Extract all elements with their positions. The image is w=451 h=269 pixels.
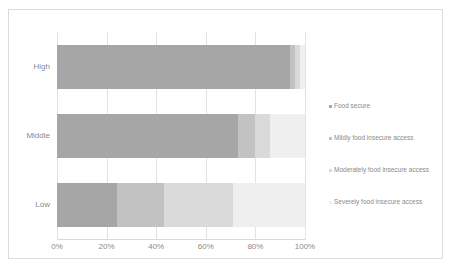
stacked-bar-chart: HighMiddleLow 0%20%40%60%80%100% Food se… — [0, 0, 451, 269]
legend-swatch-icon — [329, 137, 332, 140]
chart-legend: Food secureMildly food insecure accessMo… — [329, 102, 451, 230]
bar-segment[interactable] — [57, 114, 238, 158]
legend-item[interactable]: Mildly food insecure access — [329, 134, 451, 166]
y-axis-category-label: Middle — [26, 132, 50, 140]
y-axis-category-label: Low — [35, 201, 50, 209]
legend-item[interactable]: Food secure — [329, 102, 451, 134]
legend-item-label: Moderately food insecure access — [334, 166, 429, 174]
x-axis-tick-labels: 0%20%40%60%80%100% — [57, 243, 305, 257]
x-axis-tick-label: 60% — [198, 243, 214, 251]
legend-swatch-icon — [329, 105, 332, 108]
x-axis-tick-label: 0% — [51, 243, 63, 251]
x-axis-tick-label: 40% — [148, 243, 164, 251]
bar-segment[interactable] — [238, 114, 255, 158]
legend-swatch-icon — [329, 201, 332, 204]
bar-row[interactable]: High — [57, 45, 305, 89]
x-axis-baseline — [57, 239, 305, 240]
x-axis-tick-label: 80% — [247, 243, 263, 251]
legend-item[interactable]: Severely food insecure access — [329, 198, 451, 230]
legend-swatch-icon — [329, 169, 332, 172]
y-axis-category-label: High — [34, 63, 50, 71]
x-axis-tick-label: 20% — [99, 243, 115, 251]
bar-segment[interactable] — [255, 114, 270, 158]
bar-segment[interactable] — [117, 183, 164, 227]
bar-segment[interactable] — [57, 45, 290, 89]
plot-area: HighMiddleLow — [57, 32, 305, 240]
legend-item-label: Severely food insecure access — [334, 198, 422, 206]
legend-item-label: Mildly food insecure access — [334, 134, 413, 142]
legend-item-label: Food secure — [334, 102, 370, 110]
bar-segment[interactable] — [270, 114, 305, 158]
bar-segment[interactable] — [57, 183, 117, 227]
bar-segment[interactable] — [233, 183, 305, 227]
bar-segment[interactable] — [300, 45, 305, 89]
chart-plot-frame: HighMiddleLow 0%20%40%60%80%100% Food se… — [8, 9, 443, 259]
bar-row[interactable]: Middle — [57, 114, 305, 158]
x-axis-tick-label: 100% — [295, 243, 315, 251]
bar-row[interactable]: Low — [57, 183, 305, 227]
legend-item[interactable]: Moderately food insecure access — [329, 166, 451, 198]
bar-segment[interactable] — [164, 183, 233, 227]
gridline-x-100 — [305, 32, 306, 240]
